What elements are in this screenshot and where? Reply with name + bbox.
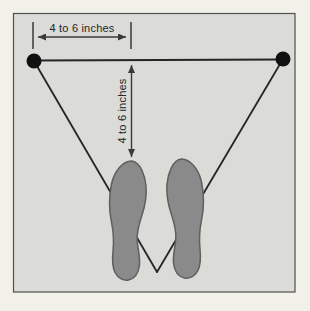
side-dimension-label: 4 to 6 inches: [116, 78, 128, 143]
right-marker-dot-icon: [276, 52, 291, 67]
page: 4 to 6 inches 4 to 6 inches: [0, 0, 310, 311]
left-marker-dot-icon: [27, 54, 42, 69]
dots-connecting-line: [34, 60, 283, 61]
top-dimension-label: 4 to 6 inches: [50, 22, 115, 34]
stance-diagram: 4 to 6 inches 4 to 6 inches: [0, 0, 310, 311]
diagram-frame: [14, 14, 296, 293]
